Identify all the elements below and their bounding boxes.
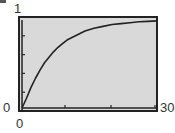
plot-frame — [19, 17, 157, 111]
plot-area — [0, 0, 175, 133]
